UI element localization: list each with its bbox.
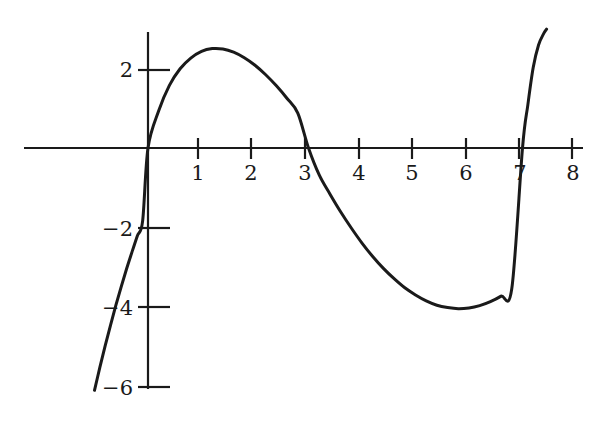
- x-tick-label-8: 8: [566, 163, 579, 184]
- x-tick-label-7: 7: [513, 163, 526, 184]
- y-tick-label-minus-2: −2: [102, 219, 133, 240]
- x-tick-label-6: 6: [459, 163, 472, 184]
- x-tick-label-3: 3: [298, 163, 311, 184]
- graph-figure: 1 2 3 4 5 6 7 8 2 −2 −4 −6: [0, 0, 601, 422]
- x-tick-label-4: 4: [352, 163, 365, 184]
- y-tick-label-minus-6: −6: [102, 378, 133, 399]
- cubic-curve: [95, 29, 547, 390]
- x-tick-label-2: 2: [244, 163, 257, 184]
- y-tick-label-2: 2: [120, 60, 133, 81]
- x-tick-label-1: 1: [191, 163, 204, 184]
- plot-area: [0, 0, 601, 422]
- y-tick-label-minus-4: −4: [102, 298, 133, 319]
- y-axis-ticks: [138, 70, 170, 387]
- x-tick-label-5: 5: [405, 163, 418, 184]
